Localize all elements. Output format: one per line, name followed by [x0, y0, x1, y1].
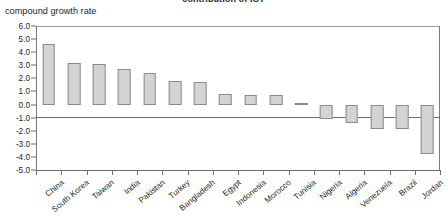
x-tick-mark	[314, 170, 315, 175]
x-tick-mark	[364, 170, 365, 175]
bar-slot	[36, 26, 61, 170]
y-tick-label: 5.0	[0, 35, 30, 44]
y-tick-label: -5.0	[0, 166, 30, 175]
y-axis-label: compound growth rate	[5, 6, 96, 16]
x-tick-mark	[36, 170, 37, 175]
bar-slot	[390, 26, 415, 170]
x-tick-mark	[61, 170, 62, 175]
bar-slot	[238, 26, 263, 170]
x-tick-mark	[137, 170, 138, 175]
x-tick-mark	[238, 170, 239, 175]
bar[interactable]	[42, 44, 55, 104]
bar[interactable]	[270, 95, 283, 104]
bar-series	[36, 26, 440, 170]
bar-slot	[87, 26, 112, 170]
y-tick-label: 3.0	[0, 61, 30, 70]
bar-slot	[137, 26, 162, 170]
bar[interactable]	[320, 105, 333, 119]
x-tick-mark	[112, 170, 113, 175]
bar[interactable]	[345, 105, 358, 123]
bar[interactable]	[143, 73, 156, 104]
bar[interactable]	[219, 94, 232, 104]
bar[interactable]	[396, 105, 409, 130]
x-tick-mark	[440, 170, 441, 175]
bar[interactable]	[295, 103, 308, 105]
x-tick-mark	[263, 170, 264, 175]
bar-slot	[188, 26, 213, 170]
y-tick-label: 2.0	[0, 74, 30, 83]
x-tick-label: Morocco	[263, 178, 293, 205]
x-tick-label: India	[122, 178, 141, 196]
x-tick-label: Brazil	[398, 178, 419, 198]
y-tick-label: 0.0	[0, 100, 30, 109]
x-tick-mark	[289, 170, 290, 175]
bar[interactable]	[118, 69, 131, 105]
y-tick-label: 4.0	[0, 48, 30, 57]
x-tick-mark	[213, 170, 214, 175]
bar-slot	[112, 26, 137, 170]
bar-slot	[364, 26, 389, 170]
bar-slot	[289, 26, 314, 170]
y-tick-label: 1.0	[0, 87, 30, 96]
y-tick-label: 6.0	[0, 22, 30, 31]
y-tick-label: -3.0	[0, 139, 30, 148]
bar-slot	[213, 26, 238, 170]
x-tick-label: Jordan	[420, 178, 445, 201]
x-tick-label: Taiwan	[91, 178, 116, 201]
x-tick-mark	[415, 170, 416, 175]
bar[interactable]	[244, 95, 257, 105]
bar[interactable]	[169, 81, 182, 105]
x-tick-mark	[339, 170, 340, 175]
x-tick-label: Nigeria	[318, 178, 344, 202]
y-tick-label: -4.0	[0, 152, 30, 161]
bar-slot	[61, 26, 86, 170]
bar[interactable]	[68, 63, 81, 105]
bar[interactable]	[371, 105, 384, 130]
bar-slot	[339, 26, 364, 170]
bar[interactable]	[93, 64, 106, 105]
bar-slot	[415, 26, 440, 170]
y-tick-label: -1.0	[0, 113, 30, 122]
x-tick-mark	[188, 170, 189, 175]
y-tick-label: -2.0	[0, 126, 30, 135]
x-tick-mark	[87, 170, 88, 175]
bar-slot	[162, 26, 187, 170]
x-tick-mark	[162, 170, 163, 175]
bar[interactable]	[421, 105, 434, 155]
bar-slot	[263, 26, 288, 170]
bar-slot	[314, 26, 339, 170]
x-tick-label: Tunisia	[292, 178, 318, 202]
chart-title: contribution of ICT	[0, 0, 447, 4]
bar[interactable]	[194, 82, 207, 105]
x-tick-label: Pakistan	[137, 178, 167, 205]
x-tick-mark	[390, 170, 391, 175]
